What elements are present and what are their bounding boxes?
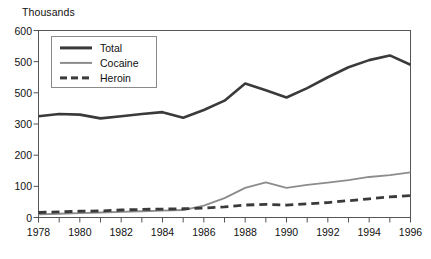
y-tick-label: 600 [2,25,32,37]
legend-swatch-heroin-icon [60,72,92,84]
x-tick-label: 1986 [192,226,215,238]
legend-item-total: Total [60,41,122,55]
x-tick-label: 1988 [233,226,256,238]
x-tick-label: 1994 [357,226,380,238]
y-tick-label: 300 [2,118,32,130]
chart-legend: Total Cocaine Heroin [51,36,157,88]
legend-item-cocaine: Cocaine [60,56,139,70]
x-tick-label: 1984 [151,226,174,238]
legend-label-total: Total [100,43,122,54]
x-tick-label: 1990 [275,226,298,238]
legend-swatch-cocaine-icon [60,57,92,69]
y-tick-label: 500 [2,87,32,99]
y-tick-label: 0 [2,212,32,224]
y-tick-label: 500 [2,56,32,68]
x-tick-label: 1992 [316,226,339,238]
x-tick-label: 1996 [399,226,422,238]
x-axis-minor-ticks [59,218,390,223]
y-tick-label: 100 [2,180,32,192]
y-axis-ticks [34,31,39,218]
x-tick-label: 1980 [68,226,91,238]
legend-item-heroin: Heroin [60,71,131,85]
legend-swatch-total-icon [60,42,92,54]
legend-label-cocaine: Cocaine [100,58,139,69]
chart-container: Thousands 6005005003002001000 1978198019… [0,0,431,259]
legend-label-heroin: Heroin [100,73,131,84]
x-tick-label: 1978 [27,226,50,238]
y-tick-label: 200 [2,149,32,161]
x-tick-label: 1982 [109,226,132,238]
